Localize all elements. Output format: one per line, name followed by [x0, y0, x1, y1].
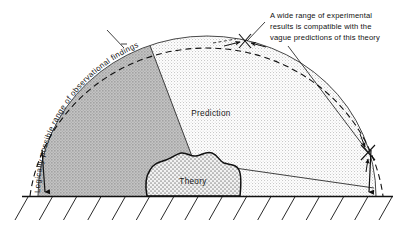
ground-hatch-mark	[379, 197, 392, 220]
ground-hatch-mark	[15, 197, 28, 220]
figure-container: Theory Prediction Logically possible ran…	[0, 0, 415, 230]
ground-hatch-mark	[136, 197, 149, 220]
ground-hatch-mark	[233, 197, 246, 220]
ground-hatch-mark	[88, 197, 101, 220]
ground-hatch-mark	[112, 197, 125, 220]
annotation-line-3: vague predictions of this theory	[270, 33, 380, 42]
theory-label: Theory	[179, 177, 207, 186]
ground-hatch-mark	[282, 197, 295, 220]
ground-hatch-mark	[258, 197, 271, 220]
ground-hatch-mark	[185, 197, 198, 220]
ground-hatch-mark	[331, 197, 344, 220]
baseline-group	[15, 197, 393, 221]
annotation-line-1: A wide range of experimental	[270, 11, 372, 20]
ground-hatching	[15, 197, 392, 220]
ground-hatch-mark	[209, 197, 222, 220]
ground-hatch-mark	[64, 197, 77, 220]
ground-hatch-mark	[355, 197, 368, 220]
annotation-line-2: results is compatible with the	[270, 22, 372, 31]
annotation-text-block: A wide range of experimental results is …	[270, 11, 380, 42]
ground-hatch-mark	[39, 197, 52, 220]
ground-hatch-mark	[161, 197, 174, 220]
prediction-label: Prediction	[191, 109, 231, 118]
diagram-svg: Theory Prediction Logically possible ran…	[0, 0, 415, 230]
annotation-leader-top	[247, 22, 265, 41]
arc-label-leader	[107, 30, 124, 48]
ground-hatch-mark	[306, 197, 319, 220]
